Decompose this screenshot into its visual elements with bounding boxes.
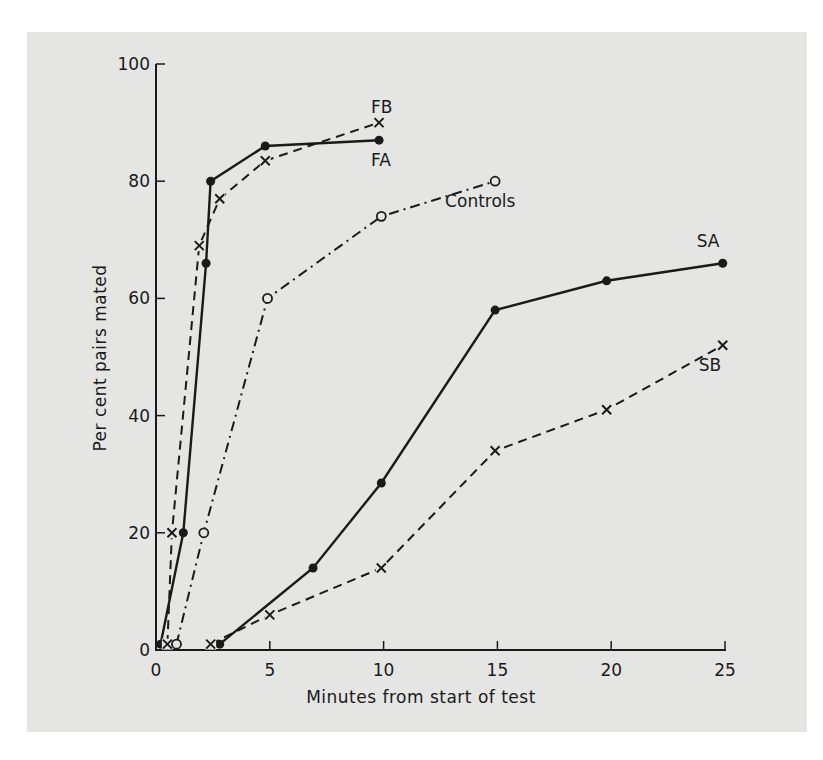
data-point bbox=[375, 136, 384, 145]
x-tick-label: 20 bbox=[600, 660, 622, 680]
x-tick-label: 5 bbox=[264, 660, 275, 680]
data-point bbox=[491, 306, 500, 315]
x-axis-title: Minutes from start of test bbox=[306, 687, 536, 707]
series-sa: SA bbox=[215, 231, 727, 648]
data-point bbox=[214, 193, 225, 204]
data-point bbox=[602, 276, 611, 285]
y-tick-label: 80 bbox=[128, 171, 150, 191]
series-label-sb: SB bbox=[699, 355, 721, 375]
series-sb: SB bbox=[205, 340, 728, 650]
series-line-controls bbox=[177, 181, 496, 644]
y-axis-title: Per cent pairs mated bbox=[90, 264, 110, 451]
data-point bbox=[601, 404, 612, 415]
data-point bbox=[263, 294, 272, 303]
x-tick-label: 15 bbox=[487, 660, 509, 680]
y-tick-label: 20 bbox=[128, 523, 150, 543]
data-point bbox=[261, 142, 270, 151]
data-point bbox=[490, 445, 501, 456]
data-point bbox=[377, 212, 386, 221]
data-point bbox=[179, 528, 188, 537]
series-line-sa bbox=[220, 263, 723, 644]
data-point bbox=[202, 259, 211, 268]
series-line-sb bbox=[211, 345, 723, 644]
data-point bbox=[264, 609, 275, 620]
ticks: 0510152025020406080100 bbox=[118, 54, 736, 680]
data-point bbox=[374, 117, 385, 128]
y-tick-label: 60 bbox=[128, 288, 150, 308]
data-point bbox=[376, 562, 387, 573]
series-fa: FA bbox=[156, 136, 391, 649]
series-line-fa bbox=[161, 140, 379, 644]
data-point bbox=[717, 340, 728, 351]
data-point bbox=[491, 177, 500, 186]
data-point bbox=[377, 478, 386, 487]
y-tick-label: 40 bbox=[128, 406, 150, 426]
line-chart: 0510152025020406080100 FAFBControlsSASB … bbox=[0, 0, 823, 760]
y-tick-label: 100 bbox=[118, 54, 150, 74]
data-point bbox=[206, 177, 215, 186]
series-controls: Controls bbox=[172, 177, 516, 649]
series-label-controls: Controls bbox=[445, 191, 515, 211]
series-label-sa: SA bbox=[697, 231, 720, 251]
x-tick-label: 25 bbox=[714, 660, 736, 680]
series-layer: FAFBControlsSASB bbox=[156, 97, 728, 650]
data-point bbox=[199, 528, 208, 537]
data-point bbox=[718, 259, 727, 268]
data-point bbox=[260, 155, 271, 166]
x-tick-label: 10 bbox=[373, 660, 395, 680]
series-label-fa: FA bbox=[371, 150, 391, 170]
data-point bbox=[205, 639, 216, 650]
data-point bbox=[309, 563, 318, 572]
y-tick-label: 0 bbox=[139, 640, 150, 660]
x-tick-label: 0 bbox=[151, 660, 162, 680]
data-point bbox=[194, 240, 205, 251]
data-point bbox=[172, 640, 181, 649]
series-label-fb: FB bbox=[371, 97, 392, 117]
series-line-fb bbox=[167, 123, 379, 645]
data-point bbox=[166, 527, 177, 538]
axes bbox=[155, 64, 726, 650]
